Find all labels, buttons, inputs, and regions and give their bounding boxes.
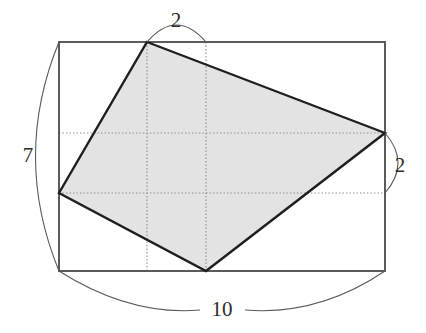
arc-left-seven [36,42,60,271]
shaded-quadrilateral [59,42,385,271]
label-right-two: 2 [395,153,406,177]
label-bottom-ten: 10 [212,297,233,321]
label-top-two: 2 [171,8,182,32]
geometry-canvas: 2 2 7 10 [0,0,426,333]
geometry-figure: 2 2 7 10 [0,0,426,333]
arc-bottom-ten-left [59,271,200,311]
label-left-seven: 7 [23,143,34,167]
arc-bottom-ten-right [245,271,385,311]
